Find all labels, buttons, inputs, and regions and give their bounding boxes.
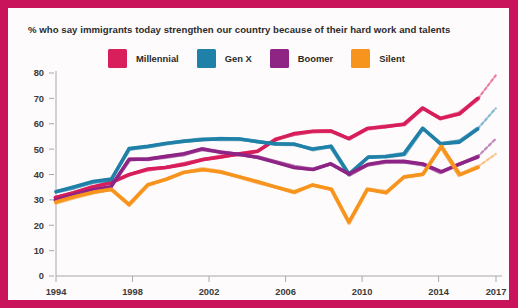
y-tick-label: 10 <box>34 246 44 256</box>
y-tick-label: 70 <box>34 94 44 104</box>
y-tick-label: 40 <box>34 170 44 180</box>
x-tick-label: 2017 <box>486 287 507 297</box>
chart-frame: % who say immigrants today strengthen ou… <box>0 0 518 308</box>
y-tick-label: 20 <box>34 221 44 231</box>
series-projection-boomer <box>477 139 495 157</box>
y-tick-label: 30 <box>34 195 44 205</box>
y-tick-label: 80 <box>34 68 44 78</box>
series-projection-gen-x <box>478 108 496 128</box>
series-projection-millennial <box>478 75 496 98</box>
x-tick-label: 1994 <box>46 287 68 297</box>
series-lines <box>55 75 495 223</box>
x-tick-label: 2006 <box>275 287 296 297</box>
x-tick-label: 2010 <box>352 287 373 297</box>
x-tick-label: 2014 <box>428 287 450 297</box>
line-chart-svg: 01020304050607080 1994199820022006201020… <box>8 8 509 300</box>
series-projection-silent <box>478 154 496 167</box>
y-tick-label: 0 <box>39 271 44 281</box>
y-tick-label: 50 <box>34 145 44 155</box>
x-axis: 1994199820022006201020142017 <box>46 276 507 297</box>
y-tick-label: 60 <box>34 119 44 129</box>
y-axis: 01020304050607080 <box>34 68 56 281</box>
plot-area: 01020304050607080 1994199820022006201020… <box>8 8 509 300</box>
x-tick-label: 2002 <box>199 287 220 297</box>
x-tick-label: 1998 <box>122 287 143 297</box>
chart-card: % who say immigrants today strengthen ou… <box>8 8 509 300</box>
